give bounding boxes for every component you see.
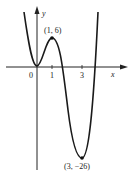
min-point-marker xyxy=(80,156,84,160)
max-point-marker xyxy=(50,36,54,40)
origin-label: 0 xyxy=(29,71,33,80)
tick-label-1: 1 xyxy=(50,71,54,80)
min-point-label: (3, −26) xyxy=(64,162,90,171)
y-axis-arrow-icon xyxy=(35,6,40,14)
function-graph: y x 0 1 3 (1, 6) (3, −26) xyxy=(0,0,134,177)
x-axis-label: x xyxy=(110,70,115,79)
tick-label-3: 3 xyxy=(80,71,84,80)
y-axis-label: y xyxy=(41,9,46,18)
max-point-label: (1, 6) xyxy=(44,26,62,35)
x-axis-arrow-icon xyxy=(120,65,128,70)
